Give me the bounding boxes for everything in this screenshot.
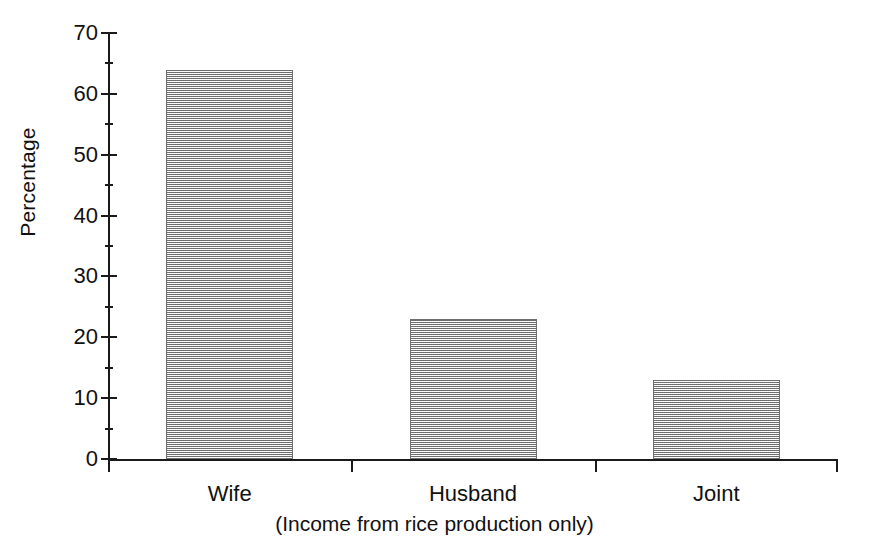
- y-tick-label: 0: [86, 448, 98, 470]
- y-tick-major: [101, 215, 117, 217]
- x-tick: [595, 459, 597, 472]
- y-tick-label: 40: [74, 205, 98, 227]
- y-tick-major: [101, 275, 117, 277]
- x-tick: [836, 459, 838, 472]
- x-axis-caption: (Income from rice production only): [0, 512, 869, 536]
- y-tick-minor: [105, 428, 113, 430]
- x-tick: [351, 459, 353, 472]
- y-tick-label: 60: [74, 83, 98, 105]
- y-tick-minor: [105, 62, 113, 64]
- x-axis-line: [108, 459, 838, 461]
- y-tick-minor: [105, 245, 113, 247]
- y-tick-major: [101, 336, 117, 338]
- y-tick-label: 70: [74, 22, 98, 44]
- y-tick-minor: [105, 184, 113, 186]
- y-tick-major: [101, 154, 117, 156]
- y-tick-minor: [105, 123, 113, 125]
- y-tick-label: 20: [74, 326, 98, 348]
- y-tick-label: 30: [74, 265, 98, 287]
- x-category-label-wife: Wife: [208, 481, 252, 507]
- x-category-label-joint: Joint: [693, 481, 739, 507]
- y-tick-minor: [105, 367, 113, 369]
- y-tick-major: [101, 93, 117, 95]
- y-tick-label: 10: [74, 387, 98, 409]
- bar-husband: [410, 319, 537, 459]
- x-tick: [108, 459, 110, 472]
- y-tick-minor: [105, 306, 113, 308]
- x-category-label-husband: Husband: [429, 481, 517, 507]
- y-tick-major: [101, 32, 117, 34]
- y-axis-title: Percentage: [16, 82, 40, 282]
- bar-wife: [166, 70, 293, 459]
- bar-joint: [653, 380, 780, 459]
- plot-area: 010203040506070 WifeHusbandJoint: [108, 33, 838, 461]
- bar-chart-figure: Percentage 010203040506070 WifeHusbandJo…: [0, 0, 869, 554]
- y-tick-major: [101, 397, 117, 399]
- y-tick-label: 50: [74, 144, 98, 166]
